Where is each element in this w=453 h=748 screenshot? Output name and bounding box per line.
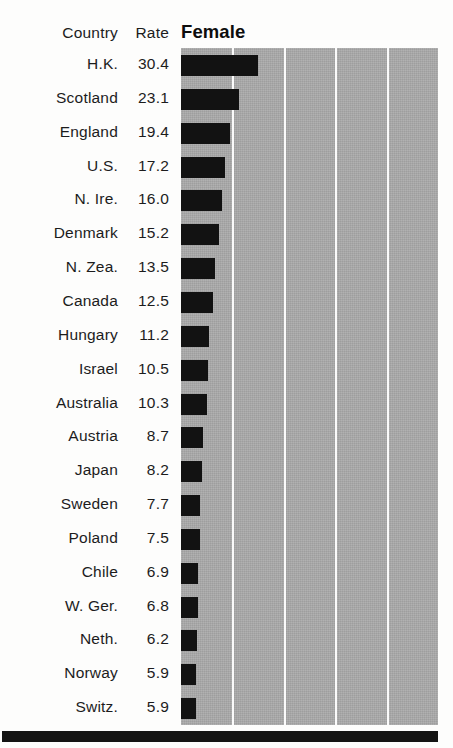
table-row: W. Ger.6.8 [0, 590, 453, 624]
row-rate-value: 16.0 [122, 190, 169, 208]
row-rate-value: 23.1 [122, 89, 169, 107]
row-country-label: Norway [0, 664, 118, 682]
bar [181, 55, 258, 76]
bar [181, 190, 222, 211]
row-rate-value: 30.4 [122, 55, 169, 73]
row-country-label: U.S. [0, 157, 118, 175]
bar [181, 664, 196, 685]
row-country-label: N. Zea. [0, 258, 118, 276]
bar [181, 123, 230, 144]
row-rate-value: 5.9 [122, 664, 169, 682]
row-rate-value: 7.5 [122, 529, 169, 547]
bar [181, 529, 200, 550]
bar [181, 597, 198, 618]
row-country-label: N. Ire. [0, 190, 118, 208]
bar [181, 157, 225, 178]
row-rate-value: 7.7 [122, 495, 169, 513]
table-row: Denmark15.2 [0, 217, 453, 251]
row-rate-value: 8.7 [122, 427, 169, 445]
row-rate-value: 17.2 [122, 157, 169, 175]
table-row: U.S.17.2 [0, 150, 453, 184]
row-country-label: Poland [0, 529, 118, 547]
row-rate-value: 10.3 [122, 394, 169, 412]
row-country-label: H.K. [0, 55, 118, 73]
table-row: Japan8.2 [0, 454, 453, 488]
bar [181, 563, 198, 584]
column-header-country: Country [0, 24, 118, 42]
row-country-label: Scotland [0, 89, 118, 107]
table-row: Switz.5.9 [0, 691, 453, 725]
row-rate-value: 5.9 [122, 698, 169, 716]
bar [181, 394, 207, 415]
row-country-label: Sweden [0, 495, 118, 513]
chart-page: Country Rate Female H.K.30.4Scotland23.1… [0, 0, 453, 748]
row-rate-value: 10.5 [122, 360, 169, 378]
row-country-label: Japan [0, 461, 118, 479]
table-row: Chile6.9 [0, 556, 453, 590]
row-rate-value: 13.5 [122, 258, 169, 276]
bar [181, 630, 197, 651]
bar [181, 427, 203, 448]
table-row: Israel10.5 [0, 353, 453, 387]
row-country-label: Neth. [0, 630, 118, 648]
row-rate-value: 6.2 [122, 630, 169, 648]
row-rate-value: 6.9 [122, 563, 169, 581]
bar [181, 258, 215, 279]
row-country-label: Hungary [0, 326, 118, 344]
table-row: Australia10.3 [0, 387, 453, 421]
row-country-label: Denmark [0, 224, 118, 242]
row-country-label: Austria [0, 427, 118, 445]
row-country-label: Switz. [0, 698, 118, 716]
table-row: H.K.30.4 [0, 48, 453, 82]
row-rate-value: 8.2 [122, 461, 169, 479]
table-row: Hungary11.2 [0, 319, 453, 353]
bar [181, 360, 208, 381]
row-country-label: England [0, 123, 118, 141]
table-row: N. Ire.16.0 [0, 183, 453, 217]
table-row: Sweden7.7 [0, 488, 453, 522]
row-country-label: Australia [0, 394, 118, 412]
table-header-row: Country Rate Female [0, 24, 453, 50]
table-row: Neth.6.2 [0, 623, 453, 657]
bar [181, 461, 202, 482]
row-country-label: W. Ger. [0, 597, 118, 615]
bar [181, 89, 239, 110]
table-row: Austria8.7 [0, 420, 453, 454]
row-rate-value: 12.5 [122, 292, 169, 310]
row-rate-value: 15.2 [122, 224, 169, 242]
row-country-label: Israel [0, 360, 118, 378]
bar [181, 326, 209, 347]
table-row: N. Zea.13.5 [0, 251, 453, 285]
column-header-rate: Rate [122, 24, 169, 42]
row-rate-value: 11.2 [122, 326, 169, 344]
table-row: Scotland23.1 [0, 82, 453, 116]
row-rate-value: 19.4 [122, 123, 169, 141]
footer-rule [2, 731, 438, 742]
table-row: Poland7.5 [0, 522, 453, 556]
chart-title: Female [181, 21, 245, 43]
bar [181, 698, 196, 719]
table-row: England19.4 [0, 116, 453, 150]
bar [181, 224, 219, 245]
bar [181, 495, 200, 516]
table-row: Norway5.9 [0, 657, 453, 691]
row-country-label: Canada [0, 292, 118, 310]
bar [181, 292, 213, 313]
table-row: Canada12.5 [0, 285, 453, 319]
row-country-label: Chile [0, 563, 118, 581]
chart-rows: H.K.30.4Scotland23.1England19.4U.S.17.2N… [0, 48, 453, 725]
row-rate-value: 6.8 [122, 597, 169, 615]
